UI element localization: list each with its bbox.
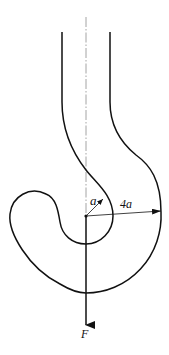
force-label: F (80, 327, 89, 341)
inner-radius-label: a (90, 193, 97, 208)
outer-radius-label: 4a (120, 197, 132, 211)
hook-diagram: a 4a F (0, 0, 169, 355)
outer-radius-arrow (86, 211, 161, 216)
